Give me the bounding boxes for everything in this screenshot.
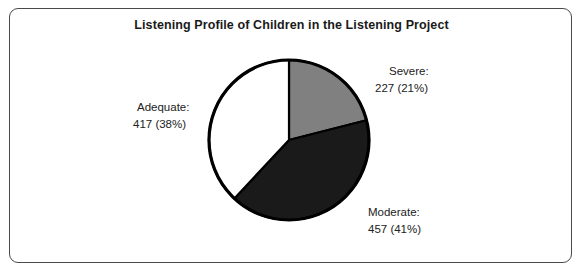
pie-label-moderate: Moderate: 457 (41%) — [368, 204, 421, 238]
page-title: Listening Profile of Children in the Lis… — [0, 18, 583, 32]
pie-label-adequate-name: Adequate: — [133, 99, 189, 116]
pie-label-severe-value: 227 (21%) — [375, 80, 429, 97]
pie-label-adequate: Adequate: 417 (38%) — [133, 99, 189, 133]
pie-label-moderate-value: 457 (41%) — [368, 221, 421, 238]
pie-label-adequate-value: 417 (38%) — [133, 116, 189, 133]
pie-chart — [206, 55, 374, 227]
pie-label-severe-name: Severe: — [375, 63, 429, 80]
figure-container: Listening Profile of Children in the Lis… — [0, 0, 583, 277]
pie-label-moderate-name: Moderate: — [368, 204, 421, 221]
pie-label-severe: Severe: 227 (21%) — [375, 63, 429, 97]
